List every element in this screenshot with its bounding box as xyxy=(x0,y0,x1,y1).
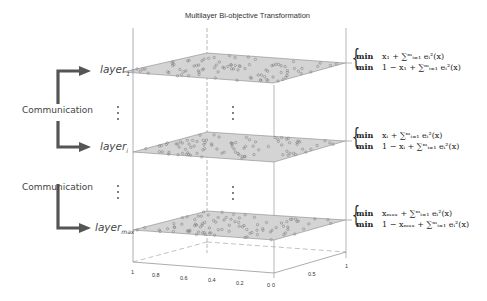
layer-1-label: layer1 xyxy=(100,63,130,77)
layer-i-sub: i xyxy=(126,147,128,154)
y-tick: 0 xyxy=(272,282,275,288)
layer-1-sub: 1 xyxy=(126,70,130,77)
min-label: min xyxy=(356,130,382,141)
plane-layer-max xyxy=(133,211,345,240)
objective-2: 1 − xₘₐₓ + ∑ᵐᵢ₌₁ eᵢ²(x) xyxy=(382,220,469,229)
communication-label-2: Communication xyxy=(22,182,93,192)
layer-max-name: layer xyxy=(95,221,121,233)
layer-max-sub: max xyxy=(121,228,134,235)
base-edge-front-right xyxy=(274,252,346,273)
y-tick: 0.5 xyxy=(308,271,316,277)
x-tick: 0.4 xyxy=(208,277,216,283)
objectives-layer-i: minxᵢ + ∑ᵐᵢ₌₁ eᵢ²(x) min1 − xᵢ + ∑ᵐᵢ₌₁ e… xyxy=(356,130,459,152)
layer-i-name: layer xyxy=(100,140,126,152)
base-edge-back-left xyxy=(133,242,207,262)
layer-1-name: layer xyxy=(100,63,126,75)
objective-2: 1 − x₁ + ∑ᵐᵢ₌₁ eᵢ²(x) xyxy=(382,63,461,72)
y-tick: 1 xyxy=(345,263,348,269)
min-label: min xyxy=(356,141,382,152)
x-tick: 0.8 xyxy=(152,272,160,278)
x-tick: 0 xyxy=(267,282,270,288)
x-tick: 0.2 xyxy=(236,280,244,286)
plane-layer-i xyxy=(133,132,345,162)
objective-2: 1 − xᵢ + ∑ᵐᵢ₌₁ eᵢ²(x) xyxy=(382,142,459,151)
layer-i-label: layeri xyxy=(100,140,128,154)
objective-1: xₘₐₓ + ∑ᵐᵢ₌₁ eᵢ²(x) xyxy=(382,209,452,218)
objectives-layer-1: minx₁ + ∑ᵐᵢ₌₁ eᵢ²(x) min1 − x₁ + ∑ᵐᵢ₌₁ e… xyxy=(356,51,461,73)
arrow-head-i xyxy=(79,142,91,152)
base-edge-back-right xyxy=(207,242,346,252)
objective-1: xᵢ + ∑ᵐᵢ₌₁ eᵢ²(x) xyxy=(382,131,442,140)
communication-arrows xyxy=(58,71,80,228)
layer-max-label: layermax xyxy=(95,221,134,235)
arrow-head-max xyxy=(79,223,91,233)
min-label: min xyxy=(356,208,382,219)
x-tick: 0.6 xyxy=(180,275,188,281)
min-label: min xyxy=(356,62,382,73)
objectives-layer-max: minxₘₐₓ + ∑ᵐᵢ₌₁ eᵢ²(x) min1 − xₘₐₓ + ∑ᵐᵢ… xyxy=(356,208,469,230)
objective-1: x₁ + ∑ᵐᵢ₌₁ eᵢ²(x) xyxy=(382,52,444,61)
min-label: min xyxy=(356,51,382,62)
communication-label-1: Communication xyxy=(22,105,93,115)
x-tick: 1 xyxy=(131,269,134,275)
min-label: min xyxy=(356,219,382,230)
arrow-head-1 xyxy=(79,66,91,76)
